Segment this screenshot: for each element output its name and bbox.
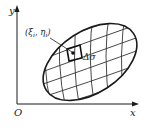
x-axis-arrow-icon: [132, 102, 139, 107]
grid-curve: [106, 10, 110, 110]
double-integral-partition-diagram: y O x (ξi, ηi) Δσ: [0, 0, 149, 130]
partition-grid: [20, 8, 149, 116]
leader-line: [50, 38, 72, 52]
grid-curve: [74, 12, 80, 110]
cell-area-label: Δσ: [82, 52, 96, 62]
point-label: (ξi, ηi): [25, 27, 51, 38]
grid-curve: [59, 15, 66, 110]
origin-label: O: [14, 107, 22, 118]
y-axis-label: y: [8, 5, 15, 16]
x-axis-label: x: [130, 107, 136, 118]
y-axis-arrow-icon: [15, 5, 20, 12]
